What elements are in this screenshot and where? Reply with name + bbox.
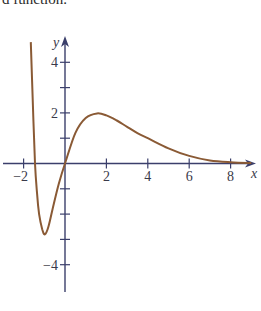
x-tick-label: 4 [144, 169, 151, 184]
x-axis-label: x [250, 166, 258, 181]
y-axis-label: y [51, 35, 60, 50]
y-tick-label: 2 [51, 106, 58, 121]
function-graph: −22468−424xy [0, 0, 261, 311]
x-tick-label: 6 [186, 169, 193, 184]
x-tick-label: 2 [103, 169, 110, 184]
y-tick-label: 4 [51, 55, 58, 70]
y-tick-label: −4 [43, 258, 58, 273]
x-tick-label: 8 [227, 169, 234, 184]
x-tick-label: −2 [13, 169, 28, 184]
